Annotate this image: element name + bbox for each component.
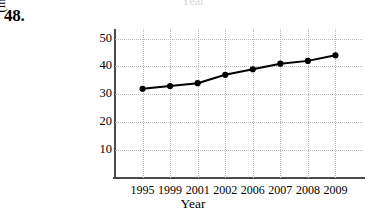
data-point-2002 — [222, 72, 228, 78]
data-point-1999 — [167, 83, 173, 89]
y-tick-20: 20 — [86, 114, 112, 129]
y-axis-title-line2: (in cents) — [0, 0, 8, 71]
data-point-1995 — [139, 86, 145, 92]
y-tick-30: 30 — [86, 86, 112, 101]
y-tick-10: 10 — [86, 142, 112, 157]
figure-root: Year 48. Cost of first-class postage (in… — [0, 0, 386, 217]
plot-area: 1020304050 19951999200120022006200720082… — [115, 33, 363, 178]
x-axis-title: Year — [0, 196, 386, 212]
y-tick-50: 50 — [86, 31, 112, 46]
cropped-previous-figure-axis-title: Year — [0, 0, 386, 9]
data-series-postage-cost — [115, 33, 363, 178]
data-point-2007 — [277, 61, 283, 67]
data-point-2009 — [332, 52, 338, 58]
data-point-2001 — [195, 80, 201, 86]
y-tick-40: 40 — [86, 58, 112, 73]
data-point-2006 — [250, 66, 256, 72]
data-point-2008 — [305, 58, 311, 64]
